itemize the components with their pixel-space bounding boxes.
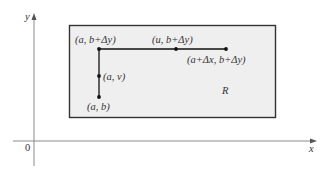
point-top-left [97,47,101,51]
label-mid-left: (a, v) [103,71,126,83]
point-top-mid [174,47,178,51]
label-top-right: (a+Δx, b+Δy) [187,54,246,66]
y-axis-label: y [24,11,30,22]
diagram-canvas: (a, b+Δy) (u, b+Δy) (a+Δx, b+Δy) (a, v) … [0,0,331,172]
y-axis-arrow-icon [32,13,37,20]
point-bottom-left [97,95,101,99]
label-top-left: (a, b+Δy) [75,34,116,46]
point-mid-left [97,74,101,78]
point-top-right [224,47,228,51]
origin-label: 0 [25,142,30,153]
x-axis-label: x [308,143,314,154]
region-label: R [221,85,229,96]
label-top-mid: (u, b+Δy) [152,34,193,46]
label-bottom-left: (a, b) [87,101,110,113]
